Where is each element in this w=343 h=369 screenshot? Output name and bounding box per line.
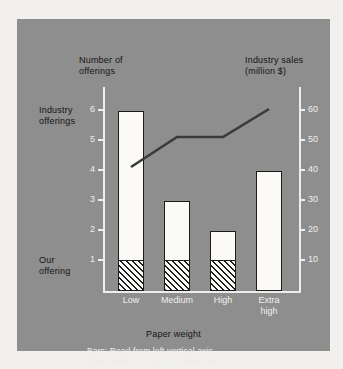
- x-axis-title: Paper weight: [17, 329, 330, 339]
- category-label-low: Low: [111, 295, 151, 306]
- footnote-line: Line: Read from right vertical axis: [87, 356, 217, 366]
- footnote-bars: Bars: Read from left vertical axis: [87, 346, 213, 356]
- category-label-high: High: [203, 295, 243, 306]
- industry-sales-polyline: [131, 109, 269, 167]
- category-label-extra-high-line1: Extra: [249, 295, 289, 306]
- chart-figure: Number of offerings Industry sales (mill…: [0, 0, 343, 369]
- chart-plate: Number of offerings Industry sales (mill…: [17, 19, 330, 351]
- category-label-medium: Medium: [155, 295, 199, 306]
- category-label-extra-high-line2: high: [249, 306, 289, 317]
- category-label-extra-high: Extra high: [249, 295, 289, 317]
